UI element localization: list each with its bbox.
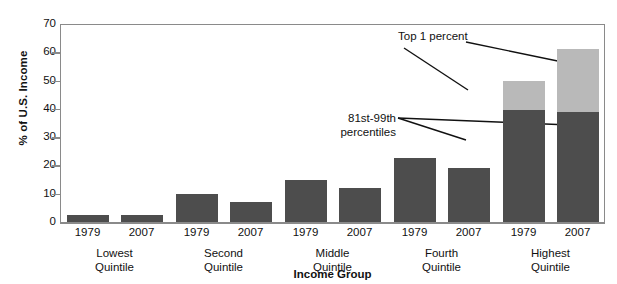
y-axis-title: % of U.S. Income: [17, 23, 29, 173]
x-group-label: FourthQuintile: [387, 246, 496, 274]
bar: [230, 202, 272, 222]
bar-segment-top-1-percent: [503, 81, 545, 111]
x-group-label: LowestQuintile: [60, 246, 169, 274]
y-tick-mark: [52, 81, 60, 83]
income-distribution-bar-chart: % of U.S. Income 010203040506070 Top 1 p…: [0, 0, 617, 284]
bar-segment-81st-99th-percentiles: [67, 215, 109, 222]
y-tick-mark: [52, 137, 60, 139]
bar: [285, 180, 327, 222]
bar: [394, 158, 436, 222]
bar-segment-81st-99th-percentiles: [394, 158, 436, 222]
y-tick-mark: [52, 52, 60, 54]
bar-segment-81st-99th-percentiles: [176, 194, 218, 222]
bar: [67, 215, 109, 222]
bar-segment-81st-99th-percentiles: [285, 180, 327, 222]
x-tick-label-year: 1979: [67, 226, 109, 239]
x-group-label: MiddleQuintile: [278, 246, 387, 274]
annotation-81st-99th-percentiles: 81st-99th percentiles: [300, 112, 396, 139]
y-axis: % of U.S. Income 010203040506070: [0, 0, 56, 284]
x-tick-label-year: 2007: [121, 226, 163, 239]
x-tick-label-year: 1979: [394, 226, 436, 239]
x-group-label-line: Quintile: [278, 260, 387, 274]
bar: [176, 194, 218, 222]
x-tick-label-year: 2007: [230, 226, 272, 239]
x-group-label-line: Middle: [278, 246, 387, 260]
annotation-top-1-percent: Top 1 percent: [398, 30, 468, 44]
x-group-label-line: Fourth: [387, 246, 496, 260]
bar: [121, 215, 163, 222]
x-tick-label-year: 1979: [176, 226, 218, 239]
y-tick-mark: [52, 165, 60, 167]
bar-segment-81st-99th-percentiles: [230, 202, 272, 222]
bar-segment-81st-99th-percentiles: [503, 110, 545, 222]
x-group-label-line: Lowest: [60, 246, 169, 260]
x-group-label-line: Quintile: [169, 260, 278, 274]
bar-segment-81st-99th-percentiles: [557, 112, 599, 222]
bar: [448, 168, 490, 222]
bar: [557, 49, 599, 222]
x-group-label: SecondQuintile: [169, 246, 278, 274]
y-tick-label: 70: [30, 18, 56, 30]
x-group-label-line: Quintile: [60, 260, 169, 274]
x-group-label-line: Quintile: [387, 260, 496, 274]
x-tick-label-year: 2007: [448, 226, 490, 239]
x-group-label-line: Second: [169, 246, 278, 260]
x-axis-baseline: [60, 222, 605, 224]
y-tick-mark: [52, 109, 60, 111]
bar: [339, 188, 381, 222]
x-tick-label-year: 1979: [503, 226, 545, 239]
bar-segment-81st-99th-percentiles: [448, 168, 490, 222]
bar-segment-top-1-percent: [557, 49, 599, 111]
x-tick-label-year: 2007: [339, 226, 381, 239]
x-group-label-line: Quintile: [496, 260, 605, 274]
bar-segment-81st-99th-percentiles: [121, 215, 163, 222]
x-group-label-line: Highest: [496, 246, 605, 260]
x-tick-label-year: 1979: [285, 226, 327, 239]
y-tick-label: 0: [30, 216, 56, 228]
bar: [503, 81, 545, 222]
bar-segment-81st-99th-percentiles: [339, 188, 381, 222]
x-tick-label-year: 2007: [557, 226, 599, 239]
x-group-label: HighestQuintile: [496, 246, 605, 274]
y-tick-mark: [52, 194, 60, 196]
